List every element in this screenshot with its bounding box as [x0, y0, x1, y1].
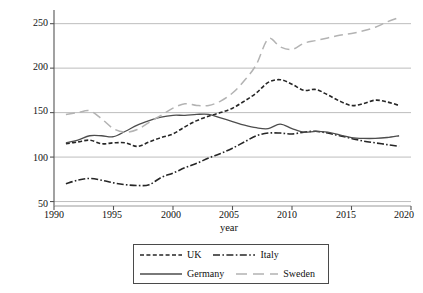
series-line-sweden: [66, 17, 399, 132]
legend-swatch-germany: [140, 269, 182, 279]
legend-swatch-italy: [213, 250, 255, 260]
legend-item-uk: UK: [140, 249, 201, 260]
legend-label-sweden: Sweden: [283, 268, 315, 279]
legend-item-sweden: Sweden: [236, 268, 315, 279]
chart-legend: UK Italy Germany Sweden: [133, 244, 329, 284]
legend-swatch-uk: [140, 250, 182, 260]
legend-item-italy: Italy: [213, 249, 278, 260]
legend-item-germany: Germany: [140, 268, 224, 279]
legend-swatch-sweden: [236, 269, 278, 279]
chart-figure: Credit to the non-financial sector (% GD…: [0, 0, 423, 293]
series-line-italy: [66, 131, 399, 185]
legend-label-italy: Italy: [260, 249, 278, 260]
legend-label-germany: Germany: [187, 268, 224, 279]
legend-label-uk: UK: [187, 249, 201, 260]
